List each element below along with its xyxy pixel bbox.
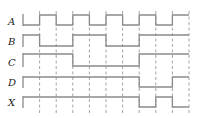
- signal-row-c: C: [8, 53, 189, 68]
- grid-lines: [40, 11, 189, 113]
- signal-row-b: B: [7, 34, 189, 47]
- signal-row-d: D: [7, 76, 189, 88]
- signal-label-d: D: [7, 77, 16, 88]
- signal-label-a: A: [7, 16, 15, 27]
- signal-row-x: X: [7, 96, 189, 108]
- timing-diagram: ABCDX: [0, 0, 199, 118]
- waveform-a: [23, 15, 189, 25]
- signal-rows: ABCDX: [7, 14, 189, 108]
- signal-label-c: C: [8, 57, 16, 68]
- signal-label-x: X: [7, 97, 16, 108]
- signal-row-a: A: [7, 14, 189, 27]
- waveform-b: [23, 35, 189, 46]
- signal-label-b: B: [7, 36, 15, 47]
